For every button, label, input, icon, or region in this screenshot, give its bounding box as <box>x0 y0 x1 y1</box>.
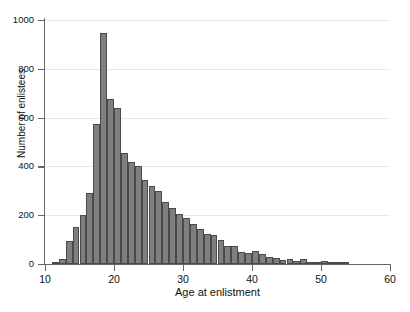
histogram-bar <box>93 124 100 264</box>
histogram-bar <box>100 33 107 264</box>
histogram-bar <box>176 214 183 264</box>
histogram-figure: 02004006008001000 102030405060 Number of… <box>0 0 410 312</box>
histogram-bar <box>259 254 266 264</box>
histogram-bar <box>169 208 176 264</box>
y-axis-tick-label: 200 <box>0 210 34 220</box>
histogram-bar <box>238 252 245 264</box>
x-axis-title: Age at enlistment <box>45 286 390 298</box>
y-axis-line <box>44 18 45 265</box>
histogram-bar <box>128 162 135 264</box>
histogram-bar <box>197 229 204 264</box>
x-axis-tick-label: 60 <box>375 273 405 285</box>
x-axis-tick <box>45 265 46 271</box>
y-axis-tick <box>38 264 44 265</box>
histogram-bar <box>231 246 238 264</box>
x-axis-tick <box>321 265 322 271</box>
histogram-bar <box>266 257 273 264</box>
histogram-bar <box>142 180 149 264</box>
histogram-bar <box>114 108 121 264</box>
y-axis-title: Number of enlistees <box>16 39 27 189</box>
x-axis-line <box>44 264 391 265</box>
x-axis-tick-label: 30 <box>168 273 198 285</box>
plot-area <box>45 20 390 264</box>
histogram-bar <box>190 224 197 264</box>
histogram-bar <box>211 235 218 264</box>
x-axis-tick <box>114 265 115 271</box>
histogram-bar <box>252 251 259 264</box>
y-axis-tick <box>38 166 44 167</box>
x-axis-tick <box>252 265 253 271</box>
x-axis-tick-label: 50 <box>306 273 336 285</box>
y-axis-tick <box>38 215 44 216</box>
histogram-bar <box>245 253 252 264</box>
x-axis-tick <box>390 265 391 271</box>
x-axis-tick <box>183 265 184 271</box>
histogram-bar <box>73 227 80 264</box>
histogram-bars <box>45 20 390 264</box>
x-axis-tick-label: 10 <box>30 273 60 285</box>
histogram-bar <box>155 191 162 264</box>
histogram-bar <box>107 99 114 264</box>
histogram-bar <box>183 218 190 264</box>
histogram-bar <box>80 215 87 264</box>
histogram-bar <box>149 186 156 264</box>
histogram-bar <box>204 234 211 265</box>
y-axis-tick <box>38 69 44 70</box>
x-axis-tick-label: 20 <box>99 273 129 285</box>
x-axis-tick-label: 40 <box>237 273 267 285</box>
histogram-bar <box>224 246 231 264</box>
histogram-bar <box>135 166 142 264</box>
y-axis-tick <box>38 20 44 21</box>
histogram-bar <box>162 202 169 264</box>
histogram-bar <box>66 241 73 264</box>
y-axis-tick-label: 0 <box>0 259 34 269</box>
y-axis-tick-label: 1000 <box>0 15 34 25</box>
y-axis-tick <box>38 118 44 119</box>
histogram-bar <box>218 240 225 264</box>
histogram-bar <box>121 153 128 264</box>
histogram-bar <box>86 193 93 264</box>
